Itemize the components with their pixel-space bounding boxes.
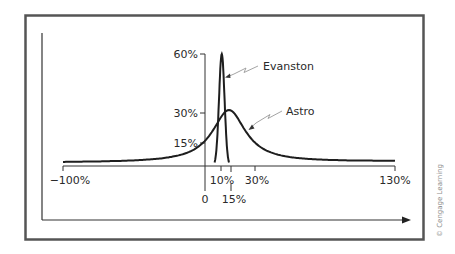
- x-axis-arrowhead-icon: [402, 217, 411, 224]
- copyright-credit: © Cengage Learning: [436, 164, 444, 237]
- x-tick-label-0: 0: [202, 193, 209, 206]
- chart-figure: Evanston Astro 60% 30% 15% −100% 10% 30%…: [0, 0, 455, 254]
- x-tick-label-15: 15%: [222, 193, 246, 206]
- y-tick-label-15: 15%: [174, 137, 198, 150]
- astro-leader-line: [251, 111, 282, 128]
- x-tick-label-neg100: −100%: [50, 174, 91, 187]
- x-tick-label-130: 130%: [379, 174, 410, 187]
- evanston-label: Evanston: [263, 60, 314, 73]
- y-tick-label-60: 60%: [174, 48, 198, 61]
- x-tick-label-10: 10%: [210, 174, 234, 187]
- evanston-leader-line: [227, 66, 258, 77]
- astro-curve: [63, 110, 395, 162]
- x-tick-label-30: 30%: [245, 174, 269, 187]
- evanston-curve: [215, 54, 229, 163]
- astro-label: Astro: [286, 105, 315, 118]
- y-tick-label-30: 30%: [174, 107, 198, 120]
- evanston-arrowhead-icon: [225, 74, 231, 79]
